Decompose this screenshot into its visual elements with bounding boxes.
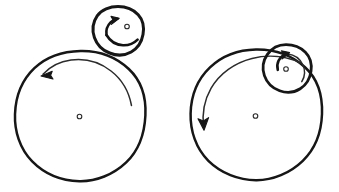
diagram-canvas <box>0 0 339 192</box>
large-circle-right <box>191 49 322 180</box>
figure-external-tangency <box>15 7 146 182</box>
figure-internal-tangency <box>191 45 322 181</box>
large-circle-left <box>15 51 146 181</box>
small-circle-left-center-dot <box>125 24 130 29</box>
small-circle-right-center-dot <box>284 67 289 72</box>
large-circle-left-center-dot <box>77 114 82 119</box>
large-circle-left-rotation-arrow <box>41 60 132 106</box>
small-circle-right-rotation-arrow <box>277 51 304 82</box>
small-circle-left <box>93 7 143 55</box>
rolling-circles-diagram <box>0 0 339 192</box>
large-circle-right-center-dot <box>253 114 258 119</box>
small-circle-left-rotation-arrow <box>106 16 137 45</box>
